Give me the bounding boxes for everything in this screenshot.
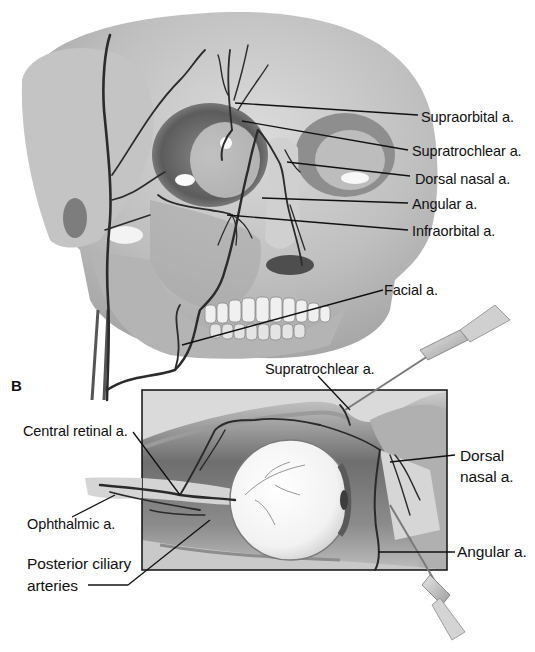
label-supratrochlear-artery-b: Supratrochlear a. <box>265 361 375 377</box>
label-dorsal-nasal-artery-b-line1: Dorsal <box>460 447 504 465</box>
label-dorsal-nasal-artery: Dorsal nasal a. <box>415 171 510 187</box>
orbit-illustration <box>85 390 447 570</box>
label-supraorbital-artery: Supraorbital a. <box>421 109 514 125</box>
label-facial-artery: Facial a. <box>384 282 438 298</box>
label-infraorbital-artery: Infraorbital a. <box>412 223 495 239</box>
label-posterior-ciliary-line1: Posterior ciliary <box>27 555 131 573</box>
label-supratrochlear-artery: Supratrochlear a. <box>412 143 522 159</box>
skull-illustration <box>22 12 438 400</box>
panel-letter-b: B <box>11 377 22 394</box>
label-angular-artery: Angular a. <box>412 196 477 212</box>
label-central-retinal-artery: Central retinal a. <box>23 423 128 439</box>
label-dorsal-nasal-artery-b-line2: nasal a. <box>460 468 514 486</box>
label-posterior-ciliary-line2: arteries <box>27 577 78 595</box>
label-angular-artery-b: Angular a. <box>457 543 527 561</box>
label-ophthalmic-artery: Ophthalmic a. <box>27 516 115 532</box>
